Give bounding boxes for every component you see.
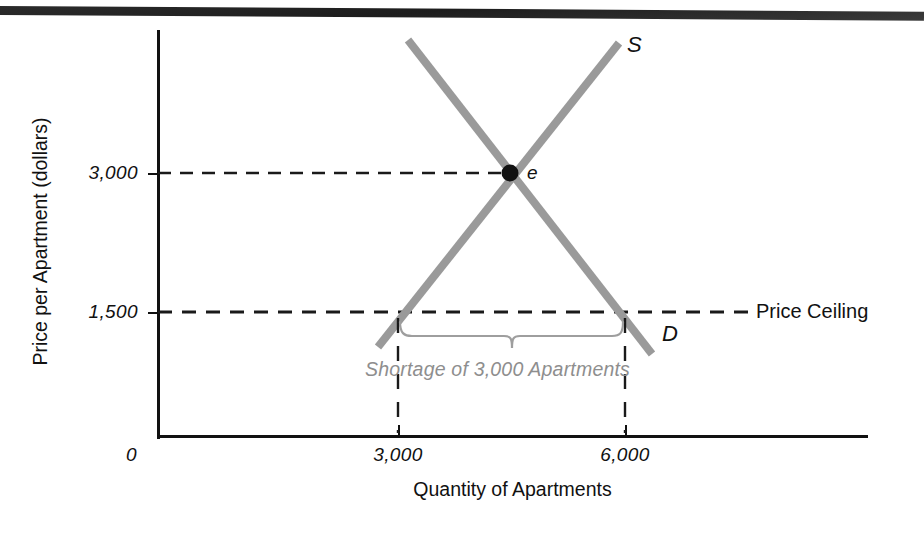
equilibrium-point-label: e xyxy=(527,162,538,184)
shortage-annotation-label: Shortage of 3,000 Apartments xyxy=(365,358,630,381)
equilibrium-point-marker xyxy=(502,165,519,182)
demand-curve-label: D xyxy=(662,321,678,347)
shortage-brace xyxy=(400,322,623,348)
demand-curve xyxy=(408,40,652,354)
supply-curve-label: S xyxy=(627,32,642,58)
supply-curve xyxy=(378,43,619,347)
price-ceiling-figure: 3,000 1,500 0 3,000 6,000 Price per Apar… xyxy=(0,0,924,543)
price-ceiling-label: Price Ceiling xyxy=(756,300,868,323)
plot-overlay xyxy=(0,0,924,543)
